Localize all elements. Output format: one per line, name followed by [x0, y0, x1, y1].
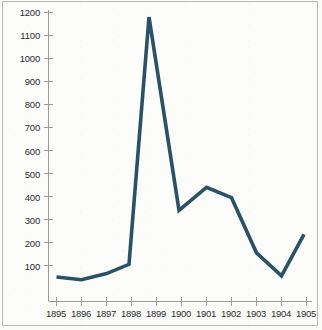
chart-plot-area: [0, 0, 322, 330]
data-series-line: [57, 17, 305, 280]
chart-page: 1200 1100 1000 900 800 700 600 500 400 3…: [0, 0, 322, 330]
